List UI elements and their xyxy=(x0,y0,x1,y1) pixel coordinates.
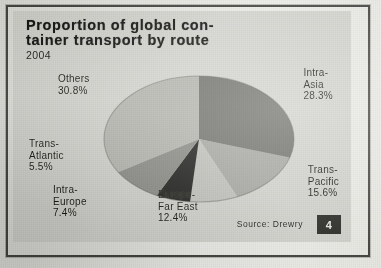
chart-subtitle-year: 2004 xyxy=(26,50,326,61)
label-europe-far-east-line1: Europe- xyxy=(158,189,195,200)
pie-chart-svg xyxy=(101,73,297,205)
pie-slices xyxy=(101,73,297,205)
label-others-line1: Others xyxy=(58,73,90,84)
label-trans-atlantic-value: 5.5% xyxy=(29,161,64,173)
label-trans-pacific-value: 15.6% xyxy=(308,187,339,199)
label-trans-pacific-line1: Trans- xyxy=(308,164,338,175)
label-others: Others 30.8% xyxy=(58,73,90,96)
title-block: Proportion of global con- tainer transpo… xyxy=(26,18,326,61)
label-intra-asia-line2: Asia xyxy=(303,79,323,90)
label-intra-europe-value: 7.4% xyxy=(53,207,87,219)
label-intra-asia: Intra- Asia 28.3% xyxy=(303,67,333,102)
label-trans-atlantic-line2: Atlantic xyxy=(29,150,64,161)
label-intra-europe-line2: Europe xyxy=(53,196,87,207)
label-europe-far-east-value: 12.4% xyxy=(158,212,198,224)
label-others-value: 30.8% xyxy=(58,85,90,97)
scanned-page: Proportion of global con- tainer transpo… xyxy=(0,0,381,268)
label-trans-pacific-line2: Pacific xyxy=(308,176,339,187)
source-attribution: Source: Drewry xyxy=(237,219,303,229)
label-europe-far-east-line2: Far East xyxy=(158,201,198,212)
page-title-line-1: Proportion of global con- xyxy=(26,18,326,33)
label-trans-pacific: Trans- Pacific 15.6% xyxy=(308,164,339,199)
label-europe-far-east: Europe- Far East 12.4% xyxy=(158,189,198,224)
pie-chart xyxy=(101,73,297,205)
label-intra-asia-value: 28.3% xyxy=(303,90,333,102)
page-number-badge: 4 xyxy=(317,215,341,234)
label-trans-atlantic-line1: Trans- xyxy=(29,138,59,149)
label-intra-asia-line1: Intra- xyxy=(303,67,328,78)
label-trans-atlantic: Trans- Atlantic 5.5% xyxy=(29,138,64,173)
label-intra-europe-line1: Intra- xyxy=(53,184,78,195)
label-intra-europe: Intra- Europe 7.4% xyxy=(53,184,87,219)
page-title-line-2: tainer transport by route xyxy=(26,33,326,48)
chart-panel: Proportion of global con- tainer transpo… xyxy=(13,11,351,242)
